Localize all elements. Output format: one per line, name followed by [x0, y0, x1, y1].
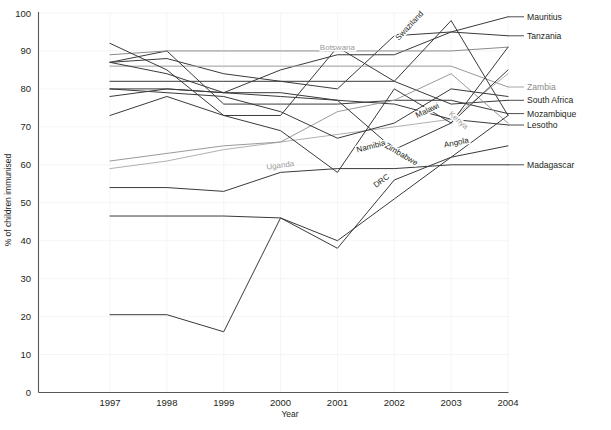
series-line-angola	[110, 146, 508, 248]
series-label-uganda: Uganda	[266, 159, 296, 172]
grid-lines	[39, 13, 510, 393]
series-label-angola: Angola	[443, 136, 470, 150]
y-tick-label: 10	[20, 349, 31, 360]
y-tick-label: 80	[20, 83, 31, 94]
y-tick-label: 40	[20, 235, 31, 246]
series-line-swaziland	[110, 21, 508, 116]
series-labels-group: MauritiusTanzaniaZambiaSouth AfricaMozam…	[266, 9, 577, 189]
x-tick-label: 2002	[384, 397, 405, 408]
immunisation-line-chart: 0102030405060708090100 19971998199920002…	[0, 0, 611, 430]
y-tick-label: 0	[26, 387, 31, 398]
y-tick-label: 90	[20, 45, 31, 56]
series-label-botswana: Botswana	[320, 43, 356, 52]
axis-lines	[39, 12, 509, 393]
series-label-malawi: Malawi	[414, 101, 441, 120]
x-tick-label: 1997	[99, 397, 120, 408]
data-series-group	[110, 17, 524, 332]
x-tick-label: 2003	[441, 397, 462, 408]
x-tick-label: 2001	[327, 397, 348, 408]
x-tick-label: 1999	[213, 397, 234, 408]
series-line-tanzania	[110, 32, 508, 97]
series-label-zambia: Zambia	[527, 82, 556, 92]
series-label-zimbabwe: Zimbabwe	[383, 141, 420, 168]
series-label-tanzania: Tanzania	[527, 31, 562, 41]
x-axis-title: Year	[281, 409, 298, 419]
chart-canvas: 0102030405060708090100 19971998199920002…	[0, 0, 611, 430]
series-label-namibia: Namibia	[356, 138, 387, 154]
series-label-lesotho: Lesotho	[527, 120, 558, 130]
series-line-mozambique	[110, 51, 508, 114]
x-tick-label: 2000	[270, 397, 291, 408]
series-label-madagascar: Madagascar	[527, 160, 574, 170]
y-tick-label: 70	[20, 121, 31, 132]
y-tick-label: 60	[20, 159, 31, 170]
series-label-south-africa: South Africa	[527, 95, 574, 105]
x-tick-label: 2004	[497, 397, 518, 408]
y-tick-label: 30	[20, 273, 31, 284]
series-line-madagascar	[110, 165, 508, 192]
series-line-zambia	[110, 66, 508, 87]
series-label-swaziland: Swaziland	[394, 9, 425, 42]
x-tick-labels: 19971998199920002001200220032004	[99, 397, 518, 408]
series-label-mozambique: Mozambique	[527, 109, 576, 119]
y-axis-title: % of children immunised	[3, 153, 13, 246]
y-tick-label: 100	[15, 8, 31, 19]
y-tick-label: 20	[20, 311, 31, 322]
y-tick-label: 50	[20, 197, 31, 208]
x-tick-label: 1998	[156, 397, 177, 408]
y-tick-labels: 0102030405060708090100	[15, 8, 31, 399]
series-line-mauritius	[110, 17, 508, 89]
series-label-mauritius: Mauritius	[527, 12, 562, 22]
